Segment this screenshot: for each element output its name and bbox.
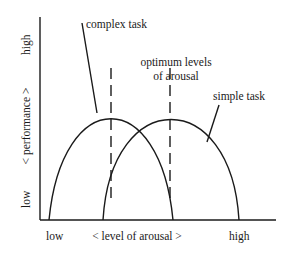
complex-task-curve xyxy=(49,119,173,220)
complex-task-label: complex task xyxy=(86,18,147,31)
x-axis-title: < level of arousal > xyxy=(92,230,182,242)
optimum-label-line2: of arousal xyxy=(153,70,199,82)
x-high-label: high xyxy=(229,230,250,243)
simple-task-leader xyxy=(207,105,219,142)
y-low-label: low xyxy=(20,190,32,208)
yerkes-dodson-diagram: complex task optimum levels of arousal s… xyxy=(0,0,287,256)
y-high-label: high xyxy=(20,34,33,55)
simple-task-label: simple task xyxy=(213,90,265,103)
y-axis-title: < performance > xyxy=(20,88,33,165)
x-low-label: low xyxy=(46,230,64,242)
optimum-label-line1: optimum levels xyxy=(140,56,212,69)
complex-task-leader xyxy=(82,23,97,113)
